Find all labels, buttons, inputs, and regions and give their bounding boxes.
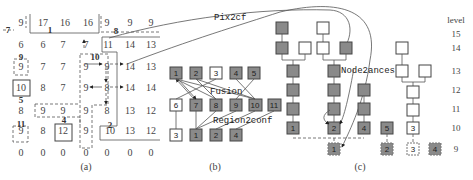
cell-r3-c5: 14 [125,82,135,93]
cell-r3-c1: 8 [41,82,46,93]
region2conf-label: Region2conf [213,116,272,126]
cell-r5-c1: 8 [41,125,46,136]
svg-text:1: 1 [291,124,296,133]
panel-b: 1 2 3 4 5 6 7 8 9 10 11 3 1 2 4 Fusion [170,67,281,173]
panel-b-caption: (b) [209,161,221,173]
svg-text:6: 6 [174,101,179,110]
cell-r2-c2: 7 [61,61,66,72]
cell-r6-c5: 0 [128,147,133,158]
b-mid-node-6: 6 [170,99,182,111]
b-mid-node-11: 11 [268,99,281,111]
cell-r1-c1: 6 [41,39,46,50]
svg-text:1: 1 [174,69,179,78]
pix2cf-label: Pix2cf [214,13,246,23]
cell-r0-c4: 9 [105,17,110,28]
cell-r0-c3: 16 [83,17,93,28]
level-10: 10 [452,123,462,133]
cell-r2-c6: 13 [146,61,156,72]
b-top-node-3: 3 [210,67,222,79]
level-13: 13 [452,66,462,76]
cell-r0-c6: 9 [149,17,154,28]
cell-r4-c1: 9 [41,105,46,116]
region-label-9: 9 [19,52,24,62]
region-label-10: 10 [91,52,101,62]
svg-text:8: 8 [214,101,219,110]
cell-r6-c4: 0 [105,147,110,158]
level-9: 9 [454,144,459,154]
region-label-1: 1 [48,25,53,35]
c-l9-node-1: 1 [328,143,340,155]
region-label-11: 11 [17,119,26,129]
b-bot-node-2: 2 [210,129,222,141]
cell-r2-c1: 7 [41,61,46,72]
panel-c: 1 2 4 5 3 [276,15,465,173]
svg-text:3: 3 [174,131,179,140]
c-l9-node-3: 3 [407,143,419,155]
cell-r4-c6: 12 [146,105,156,116]
b-bot-node-4: 4 [230,129,242,141]
panel-a-caption: (a) [80,161,91,173]
svg-text:2: 2 [194,69,199,78]
cell-r2-c3: 9 [84,61,89,72]
c-l9-node-2: 2 [381,143,393,155]
level-14: 14 [452,43,462,53]
cell-r6-c2: 0 [61,147,66,158]
panel-c-caption: (c) [354,161,365,173]
level-11: 11 [452,104,461,114]
b-top-node-1: 1 [170,67,182,79]
svg-text:4: 4 [362,124,367,133]
svg-text:5: 5 [385,124,390,133]
svg-text:1: 1 [332,145,337,154]
cell-r6-c1: 0 [41,147,46,158]
cell-r1-c0: 6 [19,39,24,50]
cell-r3-c0: 10 [16,82,26,93]
b-top-node-2: 2 [190,67,202,79]
svg-text:3: 3 [411,145,416,154]
c-leaf-3: 3 [407,122,419,134]
svg-text:4: 4 [234,69,239,78]
svg-text:9: 9 [234,101,239,110]
cell-r5-c6: 12 [146,125,156,136]
b-mid-node-7: 7 [190,99,202,111]
svg-text:10: 10 [251,101,260,110]
cell-r4-c3: 9 [84,105,89,116]
cell-r1-c4: 11 [103,39,113,50]
node2ances-label: Node2ances [341,66,395,76]
svg-text:11: 11 [270,101,279,110]
cell-r4-c0: 8 [19,105,24,116]
cell-r4-c5: 13 [125,105,135,116]
cell-r0-c1: 17 [38,17,48,28]
region-label-4: 4 [62,115,67,125]
figure-diagram: 9 17 16 16 9 9 9 6 6 7 7 11 14 13 9 7 7 … [0,0,473,180]
cell-r2-c4: 9 [105,61,110,72]
region-label-5: 5 [19,95,24,105]
b-mid-node-10: 10 [249,99,262,111]
cell-r0-c5: 9 [128,17,133,28]
cell-r6-c3: 0 [84,147,89,158]
svg-text:1: 1 [194,131,199,140]
svg-text:2: 2 [332,124,337,133]
cell-r5-c5: 13 [125,125,135,136]
cell-r3-c3: 9 [84,82,89,93]
b-top-node-4: 4 [230,67,242,79]
cell-r1-c5: 14 [125,39,135,50]
level-header: level [447,15,465,25]
b-top-node-5: 5 [248,67,260,79]
c-leaf-2: 2 [328,122,340,134]
svg-text:2: 2 [214,131,219,140]
c-l9-node-4: 4 [429,143,441,155]
cell-r0-c2: 16 [60,17,70,28]
cell-r3-c2: 7 [61,82,66,93]
level-15: 15 [452,29,462,39]
cell-r6-c6: 0 [149,147,154,158]
c-leaf-4: 4 [358,122,370,134]
c-leaf-5: 5 [381,122,393,134]
panel-a-grid: 9 17 16 16 9 9 9 6 6 7 7 11 14 13 9 7 7 … [16,17,156,158]
cell-r1-c6: 13 [146,39,156,50]
cell-r2-c0: 9 [19,61,24,72]
cell-r4-c4: 8 [105,105,110,116]
svg-text:7: 7 [194,101,199,110]
cell-r1-c2: 7 [61,39,66,50]
panel-a-regions: 1 7 8 2 9 5 10 11 4 [3,14,160,173]
b-mid-node-9: 9 [230,99,242,111]
